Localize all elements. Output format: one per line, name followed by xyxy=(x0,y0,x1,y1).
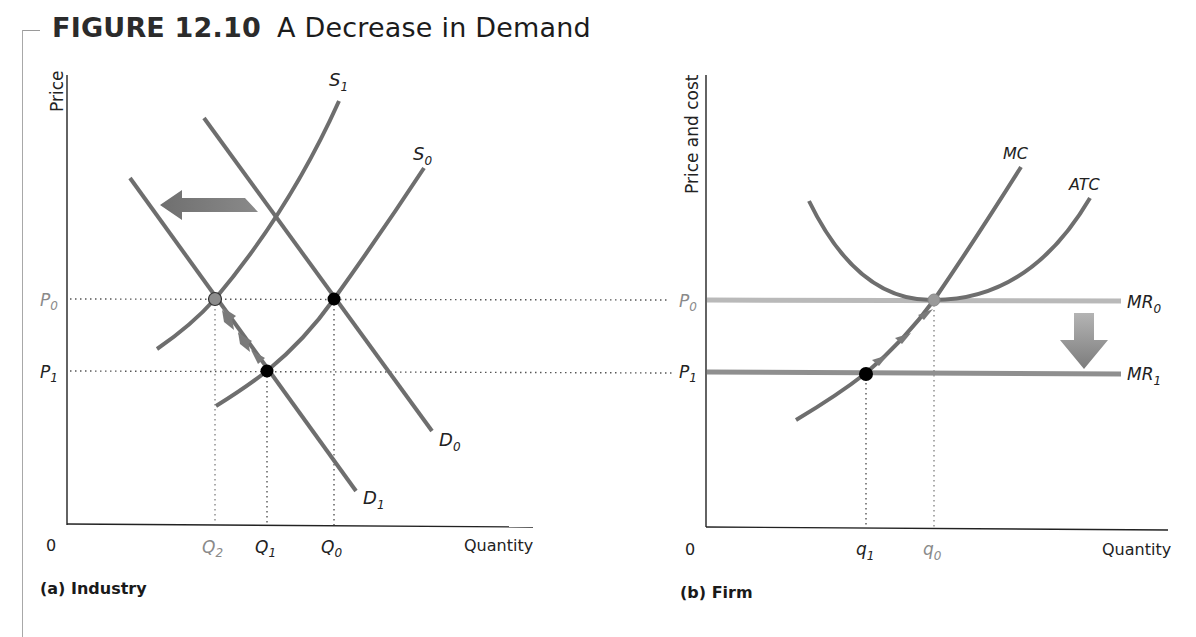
d0-curve-label: D0 xyxy=(439,429,461,454)
industry-q0-label: Q0 xyxy=(321,537,342,560)
short-run-equilibrium-dot xyxy=(261,365,274,378)
firm-q0-label: q0 xyxy=(923,539,942,563)
industry-p0-label: P0 xyxy=(40,290,58,313)
industry-adjustment-arrows-icon xyxy=(222,307,265,368)
d1-curve-label: D1 xyxy=(363,487,385,512)
industry-x-axis xyxy=(67,524,533,527)
industry-panel-caption: (a) Industry xyxy=(40,579,147,598)
industry-q2-label: Q2 xyxy=(202,537,223,560)
initial-equilibrium-dot xyxy=(328,293,341,306)
atc-curve-label: ATC xyxy=(1068,175,1101,194)
supply-curve-s1 xyxy=(157,101,339,349)
mc-curve-label: MC xyxy=(1003,144,1029,163)
demand-curve-d0 xyxy=(204,118,432,431)
demand-curve-d1 xyxy=(130,178,356,491)
industry-p1-label: P1 xyxy=(40,362,58,385)
mr-shift-down-arrow-icon xyxy=(1060,313,1108,369)
atc-curve xyxy=(809,198,1090,300)
firm-p0-label: P0 xyxy=(679,291,697,314)
firm-origin-label: 0 xyxy=(685,540,695,559)
firm-panel-caption: (b) Firm xyxy=(680,583,753,602)
mc-curve xyxy=(796,167,1021,420)
firm-short-run-dot xyxy=(859,367,873,381)
mr1-line xyxy=(707,372,1121,374)
mr1-label: MR1 xyxy=(1127,364,1161,388)
firm-q1-label: q1 xyxy=(856,539,874,563)
firm-x-axis xyxy=(706,527,1168,530)
firm-y-label: Price and cost xyxy=(682,74,702,194)
long-run-equilibrium-dot xyxy=(209,293,222,306)
demand-shift-left-arrow-icon xyxy=(160,190,258,220)
industry-panel: Price Quantity 0 P0 P1 Q2 Q1 Q0 S1 S0 D0… xyxy=(40,69,672,560)
firm-p1-label: P1 xyxy=(679,362,697,385)
firm-x-label: Quantity xyxy=(1102,540,1171,559)
chart-canvas: Price Quantity 0 P0 P1 Q2 Q1 Q0 S1 S0 D0… xyxy=(0,0,1196,637)
industry-x-label: Quantity xyxy=(464,536,533,555)
s1-curve-label: S1 xyxy=(329,69,348,94)
mr0-label: MR0 xyxy=(1127,292,1161,316)
industry-origin-label: 0 xyxy=(46,536,56,555)
firm-guides xyxy=(866,300,934,527)
firm-panel: Price and cost Quantity 0 P0 P1 q1 q0 MC… xyxy=(679,74,1171,563)
firm-adjustment-arrows-icon xyxy=(872,309,933,366)
industry-q1-label: Q1 xyxy=(255,537,276,560)
industry-y-label: Price xyxy=(47,71,67,112)
firm-long-run-dot xyxy=(928,294,940,306)
s0-curve-label: S0 xyxy=(413,143,432,168)
